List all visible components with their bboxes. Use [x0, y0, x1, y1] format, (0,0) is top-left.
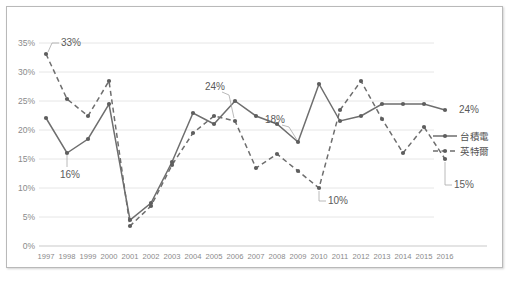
x-tick-2013: 2013: [374, 252, 391, 261]
legend-swatch-dashed-icon: [433, 146, 457, 156]
data-point: [317, 186, 321, 190]
data-point: [359, 114, 363, 118]
legend-label-tsmc: 台積電: [460, 129, 489, 143]
data-point: [296, 169, 300, 173]
callout-33: 33%: [61, 37, 81, 48]
y-axis-ticks: 35% 30% 25% 20% 15% 10% 5% 0%: [18, 38, 35, 251]
data-point: [149, 201, 153, 205]
callout-24-tsmc: 24%: [459, 104, 479, 115]
x-tick-2002: 2002: [143, 252, 160, 261]
x-tick-2012: 2012: [353, 252, 370, 261]
x-tick-2003: 2003: [164, 252, 181, 261]
x-tick-2001: 2001: [122, 252, 139, 261]
y-tick-0: 0%: [23, 241, 36, 251]
line-chart-plot: 35% 30% 25% 20% 15% 10% 5% 0% 1997 1998 …: [7, 7, 502, 267]
legend-item-intel[interactable]: 英特爾: [433, 143, 494, 158]
series-line-intel: [46, 54, 445, 226]
series-markers-intel: [44, 52, 447, 228]
y-tick-5: 5%: [23, 212, 36, 222]
x-tick-2007: 2007: [248, 252, 265, 261]
data-point: [254, 114, 258, 118]
data-point: [380, 102, 384, 106]
data-point: [338, 119, 342, 123]
data-point: [401, 151, 405, 155]
x-tick-2011: 2011: [332, 252, 348, 261]
callout-24-intel: 24%: [205, 81, 225, 92]
callout-18: 18%: [265, 114, 285, 125]
legend-swatch-solid-icon: [433, 131, 457, 141]
data-point: [233, 99, 237, 103]
x-tick-1998: 1998: [59, 252, 76, 261]
x-tick-2005: 2005: [206, 252, 223, 261]
data-point: [359, 79, 363, 83]
callout-leader-18: [282, 125, 297, 140]
data-point: [422, 102, 426, 106]
x-tick-2008: 2008: [269, 252, 286, 261]
data-point: [233, 119, 237, 123]
data-point: [86, 114, 90, 118]
callout-leader-15: [445, 162, 452, 185]
x-tick-2000: 2000: [101, 252, 118, 261]
x-tick-2014: 2014: [395, 252, 412, 261]
data-point: [212, 114, 216, 118]
x-tick-2016: 2016: [437, 252, 454, 261]
callout-10: 10%: [328, 195, 348, 206]
data-point: [107, 102, 111, 106]
chart-frame: 35% 30% 25% 20% 15% 10% 5% 0% 1997 1998 …: [6, 6, 503, 268]
data-point: [380, 117, 384, 121]
data-point: [44, 116, 48, 120]
callout-leader-10: [319, 191, 326, 201]
x-tick-2004: 2004: [185, 252, 202, 261]
callout-leader-33: [48, 43, 59, 52]
series-markers-tsmc: [44, 82, 447, 222]
y-tick-15: 15%: [18, 154, 35, 164]
data-point: [128, 224, 132, 228]
x-tick-1999: 1999: [80, 252, 97, 261]
data-point: [338, 108, 342, 112]
data-point: [212, 122, 216, 126]
y-tick-25: 25%: [18, 96, 35, 106]
y-tick-30: 30%: [18, 67, 35, 77]
x-tick-2009: 2009: [290, 252, 307, 261]
data-point: [443, 108, 447, 112]
y-tick-10: 10%: [18, 183, 35, 193]
legend-item-tsmc[interactable]: 台積電: [433, 128, 494, 143]
data-point: [86, 137, 90, 141]
gridlines: [39, 43, 434, 217]
data-point: [170, 160, 174, 164]
data-point: [65, 97, 69, 101]
data-point: [401, 102, 405, 106]
y-tick-35: 35%: [18, 38, 35, 48]
data-point: [254, 166, 258, 170]
y-tick-20: 20%: [18, 125, 35, 135]
series-line-tsmc: [46, 84, 445, 220]
data-point: [65, 151, 69, 155]
x-tick-1997: 1997: [38, 252, 55, 261]
x-tick-2015: 2015: [416, 252, 433, 261]
callout-15: 15%: [454, 179, 474, 190]
legend-label-intel: 英特爾: [460, 144, 489, 158]
data-point: [275, 152, 279, 156]
callout-16: 16%: [60, 169, 80, 180]
data-point: [128, 218, 132, 222]
data-point: [296, 140, 300, 144]
chart-legend: 台積電 英特爾: [430, 125, 496, 161]
data-point: [191, 111, 195, 115]
x-tick-2006: 2006: [227, 252, 244, 261]
data-point: [191, 131, 195, 135]
data-point: [422, 125, 426, 129]
x-axis-ticks: 1997 1998 1999 2000 2001 2002 2003 2004 …: [38, 252, 454, 261]
data-point: [44, 52, 48, 56]
data-point: [317, 82, 321, 86]
x-tick-2010: 2010: [311, 252, 328, 261]
data-point: [107, 79, 111, 83]
